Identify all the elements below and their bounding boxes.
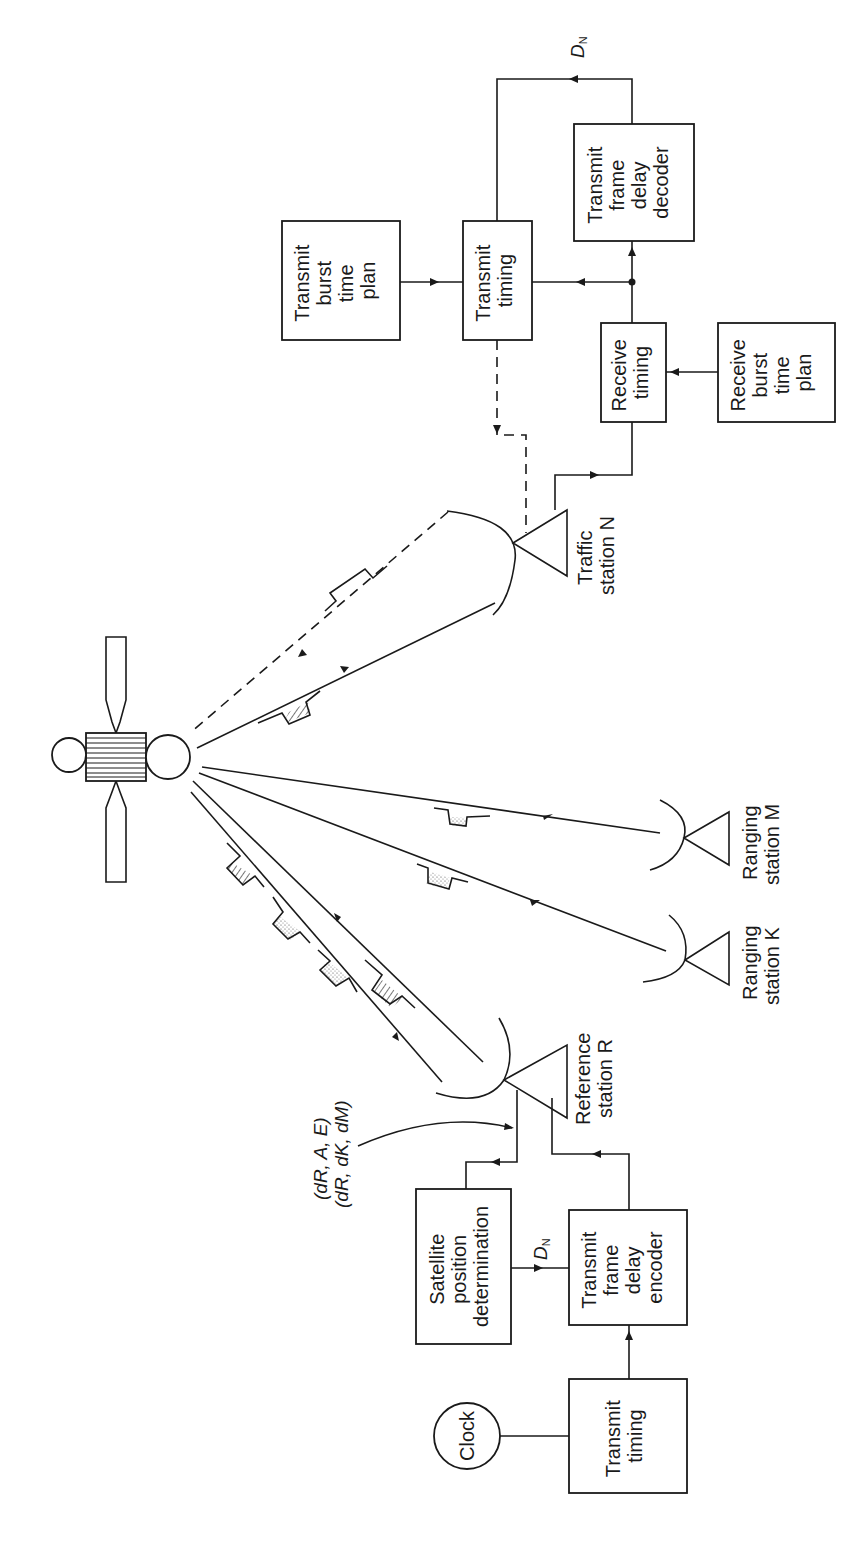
antenna-feed-icon: [504, 1045, 567, 1118]
satellite-icon: [52, 637, 190, 882]
antenna-feed-icon: [513, 510, 567, 576]
transmit-frame-delay-encoder-block: Transmit frame delay encoder: [569, 1210, 687, 1325]
transmit-burst-time-plan-block: Transmit burst time plan: [282, 221, 400, 340]
traffic-station-label: Traffic: [574, 531, 596, 585]
svg-text:Ranging: Ranging: [739, 805, 761, 880]
transmit-frame-delay-decoder-block: Transmit frame delay decoder: [574, 124, 694, 241]
svg-text:station N: station N: [596, 516, 618, 595]
ranging-station-m: Ranging station M: [650, 800, 783, 885]
transmit-timing-block-r: Transmit timing: [569, 1379, 687, 1493]
antenna-feed-icon: [685, 932, 729, 985]
reference-station-r: Reference station R: [436, 1018, 616, 1125]
arrow-icon: [298, 649, 307, 657]
receive-burst-time-plan-block: Receive burst time plan: [718, 323, 835, 422]
dish-antenna-icon: [650, 800, 685, 870]
ranging-station-k: Ranging station K: [643, 915, 783, 1005]
traffic-station-n: Traffic station N: [447, 510, 618, 615]
receive-timing-block: Receive timing: [601, 323, 666, 422]
svg-text:station M: station M: [761, 804, 783, 885]
satellite-tdma-timing-diagram: Traffic station N DN Transmit: [0, 0, 855, 1548]
dn-signal-label-top: DN: [567, 36, 589, 58]
dn-signal-label-bottom: DN: [530, 1238, 552, 1260]
svg-text:Ranging: Ranging: [739, 925, 761, 1000]
annotation-dr-a-e: (dR, A, E): [310, 1117, 331, 1200]
svg-text:station R: station R: [594, 1039, 616, 1118]
svg-text:station K: station K: [761, 927, 783, 1005]
arrow-icon: [392, 1032, 399, 1041]
annotation-dr-dk-dm: (dR, dK, dM): [331, 1100, 352, 1208]
dish-antenna-icon: [643, 915, 686, 982]
dish-antenna-icon: [447, 511, 515, 615]
svg-text:Clock: Clock: [456, 1410, 478, 1461]
arrow-icon: [340, 666, 349, 673]
svg-text:Reference: Reference: [572, 1033, 594, 1125]
clock-block: Clock: [434, 1403, 500, 1469]
antenna-feed-icon: [684, 812, 729, 865]
beam-lines: [190, 512, 666, 1082]
dish-antenna-icon: [436, 1018, 510, 1098]
transmit-timing-block-n: Transmit timing: [463, 221, 532, 340]
arrow-icon: [334, 913, 341, 922]
satellite-position-determination-block: Satellite position determination: [416, 1189, 511, 1344]
